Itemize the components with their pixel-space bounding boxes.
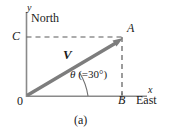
point-b-label: B (118, 94, 125, 106)
origin-label: 0 (17, 95, 23, 107)
point-a-label: A (127, 22, 134, 34)
angle-label: θ (=30°) (70, 69, 107, 80)
north-label: North (31, 12, 59, 24)
theta-value: (=30°) (75, 68, 107, 80)
figure-caption: (a) (74, 114, 87, 126)
vector-label: V (63, 48, 72, 61)
point-c-label: C (12, 30, 20, 42)
vector-arrow (27, 38, 123, 96)
east-label: East (136, 94, 157, 106)
vector-diagram-figure: y x North East A B C 0 V θ (=30°) (a) (0, 0, 169, 135)
